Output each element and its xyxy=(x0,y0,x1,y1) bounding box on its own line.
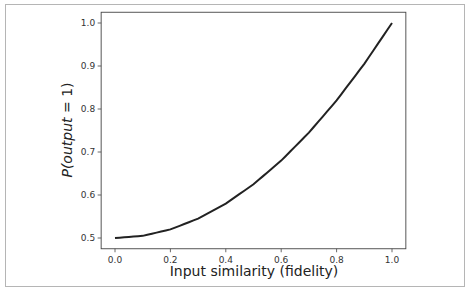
y-tick-label: 0.6 xyxy=(81,190,96,200)
x-tick-label: 0.0 xyxy=(108,255,123,265)
y-label-prefix: P( xyxy=(59,163,75,177)
data-line xyxy=(115,23,392,238)
y-label-var: output xyxy=(59,117,75,164)
y-tick-label: 1.0 xyxy=(81,18,96,28)
x-axis-label: Input similarity (fidelity) xyxy=(170,263,339,279)
y-tick-label: 0.7 xyxy=(81,147,95,157)
x-tick-label: 1.0 xyxy=(385,255,400,265)
y-label-suffix: = 1) xyxy=(59,82,75,117)
y-tick-label: 0.9 xyxy=(81,61,96,71)
y-tick-label: 0.8 xyxy=(81,104,96,114)
y-axis-ticks: 0.50.60.70.80.91.0 xyxy=(81,18,101,243)
y-axis-label: P(output = 1) xyxy=(59,82,75,177)
y-tick-label: 0.5 xyxy=(81,233,95,243)
line-chart: 0.50.60.70.80.91.0 0.00.20.40.60.81.0 In… xyxy=(0,0,470,293)
axes-box xyxy=(101,12,406,249)
